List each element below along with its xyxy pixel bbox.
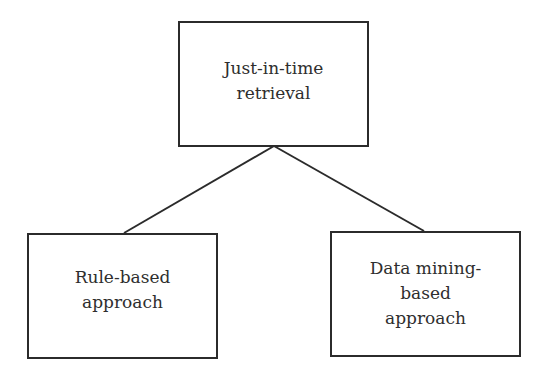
connector-root-to-rule-based <box>124 146 274 233</box>
node-label: Data mining- based approach <box>370 256 482 331</box>
connector-root-to-data-mining <box>274 146 424 231</box>
node-label: Just-in-time retrieval <box>224 56 324 106</box>
node-data-mining-based-approach: Data mining- based approach <box>330 231 521 357</box>
node-rule-based-approach: Rule-based approach <box>27 233 218 359</box>
diagram-canvas: Just-in-time retrieval Rule-based approa… <box>0 0 540 366</box>
node-label: Rule-based approach <box>75 265 171 315</box>
node-just-in-time-retrieval: Just-in-time retrieval <box>178 21 369 147</box>
